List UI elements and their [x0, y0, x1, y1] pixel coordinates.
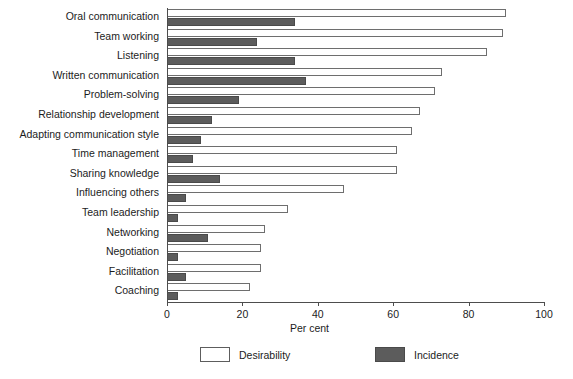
x-tick-label: 40 — [312, 308, 324, 320]
bar-incidence — [167, 18, 295, 26]
category-label: Sharing knowledge — [70, 168, 159, 179]
x-tick-label: 20 — [237, 308, 249, 320]
bar-group — [167, 87, 544, 107]
bar-incidence — [167, 234, 208, 242]
bar-incidence — [167, 38, 257, 46]
bar-incidence — [167, 96, 239, 104]
bar-desirability — [167, 48, 487, 56]
bar-desirability — [167, 264, 261, 272]
bar-incidence — [167, 292, 178, 300]
bar-incidence — [167, 77, 306, 85]
bar-incidence — [167, 214, 178, 222]
bar-group — [167, 127, 544, 147]
bar-desirability — [167, 29, 503, 37]
bar-incidence — [167, 116, 212, 124]
category-label: Adapting communication style — [20, 129, 160, 140]
bar-incidence — [167, 136, 201, 144]
legend-item-incidence[interactable]: Incidence — [375, 347, 459, 362]
bar-group — [167, 48, 544, 68]
x-tick — [167, 302, 168, 306]
x-tick-label: 0 — [164, 308, 170, 320]
category-label: Oral communication — [66, 11, 159, 22]
category-label: Relationship development — [38, 109, 159, 120]
bar-desirability — [167, 87, 435, 95]
bar-incidence — [167, 273, 186, 281]
category-label: Listening — [117, 50, 159, 61]
bar-group — [167, 107, 544, 127]
bar-incidence — [167, 175, 220, 183]
bar-incidence — [167, 253, 178, 261]
bar-group — [167, 244, 544, 264]
bar-group — [167, 29, 544, 49]
bar-group — [167, 264, 544, 284]
plot-area — [167, 8, 544, 302]
x-axis-title: Per cent — [0, 322, 573, 334]
x-axis-line — [167, 302, 545, 303]
bar-group — [167, 9, 544, 29]
x-tick — [318, 302, 319, 306]
legend-label: Desirability — [239, 349, 290, 361]
bar-incidence — [167, 155, 193, 163]
category-label: Time management — [72, 148, 159, 159]
bar-group — [167, 283, 544, 303]
x-tick-label: 100 — [535, 308, 553, 320]
bar-desirability — [167, 283, 250, 291]
bar-desirability — [167, 244, 261, 252]
category-label: Influencing others — [76, 187, 159, 198]
bar-desirability — [167, 9, 506, 17]
bar-group — [167, 225, 544, 245]
legend-label: Incidence — [414, 349, 459, 361]
bar-incidence — [167, 57, 295, 65]
x-tick — [393, 302, 394, 306]
x-tick — [242, 302, 243, 306]
bar-group — [167, 166, 544, 186]
category-label: Coaching — [115, 285, 159, 296]
x-axis-title-text: Per cent — [290, 322, 329, 334]
category-label: Networking — [106, 227, 159, 238]
bar-group — [167, 146, 544, 166]
category-label: Facilitation — [109, 266, 159, 277]
bar-group — [167, 68, 544, 88]
legend-swatch-desirability — [200, 347, 230, 362]
y-axis-line — [167, 8, 168, 302]
category-label: Team working — [94, 31, 159, 42]
bar-desirability — [167, 166, 397, 174]
bar-desirability — [167, 146, 397, 154]
category-label: Team leadership — [82, 207, 159, 218]
legend-item-desirability[interactable]: Desirability — [200, 347, 290, 362]
x-tick — [469, 302, 470, 306]
category-axis-labels: Oral communicationTeam workingListeningW… — [0, 0, 163, 302]
bar-group — [167, 185, 544, 205]
x-tick — [544, 302, 545, 306]
bar-desirability — [167, 68, 442, 76]
bar-desirability — [167, 127, 412, 135]
bar-desirability — [167, 225, 265, 233]
bar-incidence — [167, 194, 186, 202]
bar-desirability — [167, 205, 288, 213]
category-label: Negotiation — [106, 246, 159, 257]
bar-desirability — [167, 107, 420, 115]
category-label: Problem-solving — [84, 89, 159, 100]
category-label: Written communication — [52, 70, 159, 81]
bar-chart: Oral communicationTeam workingListeningW… — [0, 0, 573, 379]
bar-group — [167, 205, 544, 225]
bar-desirability — [167, 185, 344, 193]
x-tick-label: 60 — [387, 308, 399, 320]
legend-swatch-incidence — [375, 347, 405, 362]
x-tick-label: 80 — [463, 308, 475, 320]
